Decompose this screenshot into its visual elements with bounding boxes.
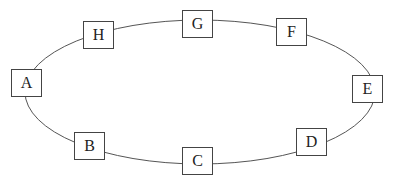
node-h-label: H <box>93 26 105 44</box>
node-f: F <box>276 18 307 46</box>
node-e: E <box>352 75 383 103</box>
ring-diagram: A H G F E D C B <box>0 0 394 187</box>
node-f-label: F <box>287 23 296 41</box>
node-g-label: G <box>192 15 204 33</box>
node-a: A <box>11 69 42 97</box>
node-h: H <box>83 21 114 49</box>
node-c-label: C <box>192 152 203 170</box>
node-d-label: D <box>306 133 318 151</box>
node-g: G <box>182 10 213 38</box>
node-b: B <box>74 132 105 160</box>
node-d: D <box>296 128 327 156</box>
node-c: C <box>182 147 213 175</box>
node-b-label: B <box>84 137 95 155</box>
node-e-label: E <box>363 80 373 98</box>
node-a-label: A <box>21 74 33 92</box>
